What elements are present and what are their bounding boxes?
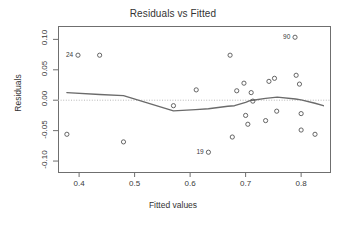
data-point	[264, 119, 268, 123]
y-tick-label: 0.10	[40, 23, 49, 53]
data-point	[76, 53, 80, 57]
plot-box-frame	[59, 27, 331, 173]
data-point	[230, 135, 234, 139]
plot-canvas	[0, 0, 346, 226]
point-label-24: 24	[66, 51, 73, 58]
data-point	[313, 132, 317, 136]
lowess-smoother-line	[67, 93, 323, 111]
point-label-90: 90	[283, 33, 290, 40]
data-point	[272, 76, 276, 80]
data-point	[194, 88, 198, 92]
data-point	[267, 79, 271, 83]
x-tick-label: 0.4	[62, 179, 96, 188]
y-tick-label: 0.05	[40, 53, 49, 83]
data-point	[235, 89, 239, 93]
data-point	[65, 132, 69, 136]
data-point	[206, 150, 210, 154]
x-tick-label: 0.8	[284, 179, 318, 188]
data-point	[293, 35, 297, 39]
data-point	[299, 112, 303, 116]
data-point	[275, 109, 279, 113]
axes-group	[53, 27, 331, 178]
x-tick-label: 0.7	[229, 179, 263, 188]
data-point	[242, 81, 246, 85]
data-point	[228, 53, 232, 57]
data-point	[297, 82, 301, 86]
y-tick-label: 0.00	[40, 84, 49, 114]
data-point	[246, 122, 250, 126]
point-label-19: 19	[196, 148, 203, 155]
data-point	[98, 53, 102, 57]
data-point	[294, 73, 298, 77]
smoother-path	[67, 93, 323, 111]
data-point	[249, 91, 253, 95]
data-point	[244, 113, 248, 117]
data-point	[121, 140, 125, 144]
residuals-vs-fitted-plot: Residuals vs Fitted Fitted values Residu…	[0, 0, 346, 226]
y-tick-label: -0.05	[40, 114, 49, 144]
y-tick-label: -0.10	[40, 145, 49, 175]
data-point	[171, 104, 175, 108]
x-tick-label: 0.5	[118, 179, 152, 188]
data-point	[299, 128, 303, 132]
x-tick-label: 0.6	[173, 179, 207, 188]
